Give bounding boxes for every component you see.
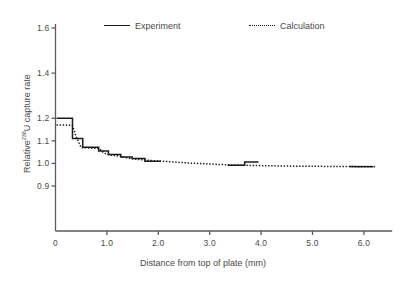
series-layer [57,118,376,167]
x-tick-label: 4.0 [251,238,271,248]
y-tick-label: 1.6 [30,23,50,33]
x-tick-label: 3.0 [200,238,220,248]
x-tick-label: 2.0 [148,238,168,248]
legend-calculation-label: Calculation [280,21,325,31]
x-tick-label: 5.0 [303,238,323,248]
legend-dotted-line-icon [249,25,275,26]
series-calculation-dotted [57,125,376,167]
legend-experiment-label: Experiment [135,21,181,31]
y-tick-label: 1.1 [30,136,50,146]
y-tick-label: 1.2 [30,113,50,123]
x-tick-label: 0 [46,238,66,248]
y-tick-label: 1.0 [30,158,50,168]
legend-item-calculation: Calculation [249,21,325,31]
legend-item-experiment: Experiment [104,21,181,31]
y-tick-label: 1.4 [30,68,50,78]
y-axis-title-superscript: 238 [21,131,27,140]
axis-layer [52,24,393,235]
y-tick-label: 0.9 [30,181,50,191]
legend-solid-line-icon [104,25,130,26]
x-tick-label: 6.0 [354,238,374,248]
x-tick-label: 1.0 [97,238,117,248]
chart-figure: Relative238U capture rate Distance from … [0,0,406,281]
x-axis-title: Distance from top of plate (mm) [0,258,406,268]
